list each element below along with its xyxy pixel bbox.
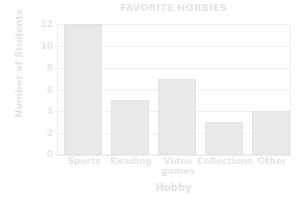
y-tick-label-6: 6 <box>47 85 53 95</box>
y-tick-label-8: 8 <box>47 63 53 73</box>
x-axis-title: Hobby <box>57 182 290 193</box>
plot-area: 12 10 8 6 4 2 0 Sports <box>57 24 291 156</box>
y-axis-title: Number of Students <box>13 4 24 124</box>
tickmark-2 <box>55 133 58 134</box>
bar-sports: Sports <box>64 24 102 155</box>
y-tick-label-10: 10 <box>40 41 53 51</box>
chart-title: FAVORITE HOBBIES <box>57 2 290 13</box>
tickmark-8 <box>55 68 58 69</box>
bar-collections: Collections <box>205 122 243 155</box>
tickmark-6 <box>55 90 58 91</box>
tickmark-0 <box>55 154 58 155</box>
tickmark-10 <box>55 46 58 47</box>
y-tick-label-2: 2 <box>47 128 53 138</box>
y-tick-label-0: 0 <box>47 149 53 159</box>
bar-chart: FAVORITE HOBBIES Number of Students 12 1… <box>0 0 307 206</box>
bar-other: Other <box>252 111 290 155</box>
bar-reading: Reading <box>111 100 149 155</box>
x-tick-label-video-games-line1: Video <box>164 156 193 166</box>
y-tick-label-12: 12 <box>40 19 53 29</box>
y-tick-label-4: 4 <box>47 106 53 116</box>
bar-video-games: Video games <box>158 79 196 155</box>
tickmark-4 <box>55 111 58 112</box>
x-tick-label-other: Other <box>245 157 299 167</box>
tickmark-12 <box>55 24 58 25</box>
x-tick-label-video-games-line2: games <box>150 167 206 177</box>
